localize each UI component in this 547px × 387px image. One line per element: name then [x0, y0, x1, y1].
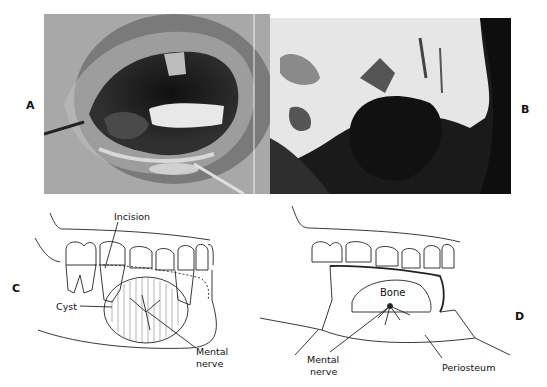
panel-a-photograph [44, 14, 270, 194]
panel-b-radiograph [270, 18, 511, 194]
panel-label-c: C [12, 282, 20, 295]
label-periosteum: Periosteum [442, 362, 495, 373]
label-mental-c: Mental [196, 346, 228, 357]
panel-label-a: A [26, 99, 35, 112]
label-cyst: Cyst [56, 301, 77, 312]
panel-label-b: B [521, 103, 529, 116]
label-incision: Incision [114, 211, 150, 222]
panel-label-d: D [515, 310, 524, 323]
label-mental-d: Mental [307, 354, 339, 365]
label-nerve-d: nerve [310, 366, 337, 377]
label-nerve-c: nerve [196, 358, 223, 369]
label-bone: Bone [380, 287, 405, 298]
